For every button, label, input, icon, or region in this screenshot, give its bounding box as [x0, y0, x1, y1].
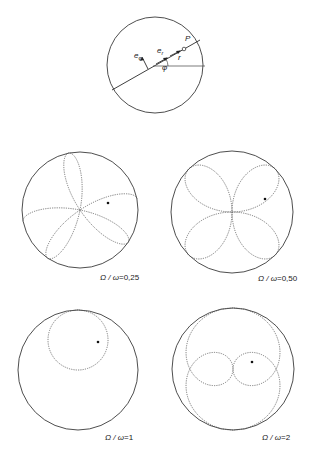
- panel-ratio-0-25: Ω / ω=0,25: [22, 152, 140, 282]
- direction-arrow-icon: [107, 202, 110, 205]
- rotating-diameter-line: [112, 40, 200, 90]
- direction-arrow-icon: [251, 361, 254, 364]
- trajectory-curve: [186, 308, 280, 430]
- label-phi: φ: [162, 63, 167, 72]
- ratio-caption: Ω / ω=1: [105, 433, 134, 442]
- direction-arrow-icon: [97, 341, 100, 344]
- label-e-r: er: [157, 46, 164, 56]
- schematic-diagram: eφ er φ r P: [107, 17, 205, 113]
- panel-ratio-2: Ω / ω=2: [172, 308, 294, 442]
- label-e-phi: eφ: [134, 51, 142, 61]
- figure-canvas: eφ er φ r P Ω / ω=0,25 Ω / ω=0,50 Ω / ω=…: [0, 0, 310, 453]
- trajectory-curve: [23, 153, 137, 259]
- ratio-caption: Ω / ω=0,50: [258, 274, 298, 283]
- point-mass-p: [182, 47, 186, 51]
- trajectory-curve: [48, 310, 108, 370]
- ratio-caption: Ω / ω=0,25: [100, 273, 140, 282]
- label-p: P: [185, 34, 191, 43]
- direction-arrow-icon: [264, 198, 267, 201]
- boundary-circle: [18, 310, 138, 430]
- label-r: r: [178, 53, 181, 62]
- panel-ratio-0-50: Ω / ω=0,50: [171, 151, 298, 283]
- trajectory-curve: [185, 165, 279, 259]
- schematic-circle: [107, 17, 203, 113]
- panel-ratio-1: Ω / ω=1: [18, 310, 138, 442]
- ratio-caption: Ω / ω=2: [262, 433, 291, 442]
